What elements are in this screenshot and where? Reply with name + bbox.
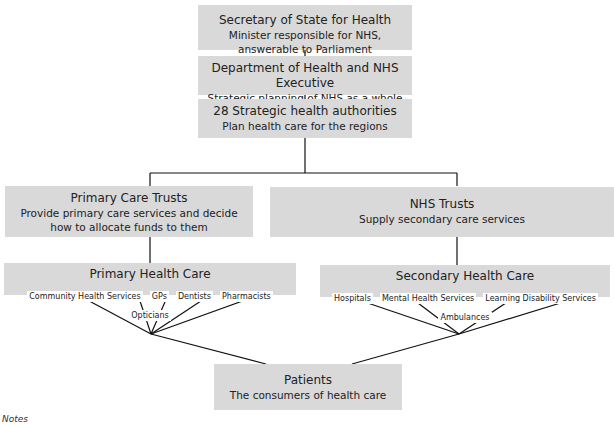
node-subtitle: Minister responsible for NHS, answerable… <box>198 28 412 56</box>
chip-community-health-services: Community Health Services <box>27 291 142 302</box>
node-secretary: Secretary of State for Health Minister r… <box>198 5 412 50</box>
node-subtitle: The consumers of health care <box>214 388 402 402</box>
chip-hospitals: Hospitals <box>332 293 373 304</box>
chip-learning-disability-services: Learning Disability Services <box>483 293 598 304</box>
node-title: NHS Trusts <box>270 197 614 212</box>
node-primary-health-care: Primary Health Care Community Health Ser… <box>4 263 296 295</box>
node-title: Primary Health Care <box>4 267 296 282</box>
node-subtitle: Plan health care for the regions <box>198 119 412 133</box>
node-subtitle: Supply secondary care services <box>270 212 614 226</box>
node-subtitle: Provide primary care services and decide… <box>11 206 247 234</box>
chip-pharmacists: Pharmacists <box>220 291 273 302</box>
node-patients: Patients The consumers of health care <box>214 364 402 410</box>
line-primary-patients <box>151 334 266 364</box>
chip-mental-health-services: Mental Health Services <box>380 293 476 304</box>
node-authorities: 28 Strategic health authorities Plan hea… <box>198 99 412 138</box>
node-secondary-health-care: Secondary Health Care Hospitals Mental H… <box>320 265 610 297</box>
node-nhs-trusts: NHS Trusts Supply secondary care service… <box>270 187 614 237</box>
node-title: Secretary of State for Health <box>198 13 412 28</box>
node-title: Patients <box>214 373 402 388</box>
node-title: Primary Care Trusts <box>11 191 247 206</box>
node-title: Secondary Health Care <box>320 269 610 284</box>
notes-label: Notes <box>2 414 28 424</box>
chip-opticians: Opticians <box>129 310 171 321</box>
node-title: Department of Health and NHS Executive <box>198 61 412 91</box>
line-secondary-patients <box>352 334 459 364</box>
chip-dentists: Dentists <box>176 291 213 302</box>
chip-gps: GPs <box>150 291 169 302</box>
chip-ambulances: Ambulances <box>438 312 491 323</box>
node-primary-care-trusts: Primary Care Trusts Provide primary care… <box>5 186 253 237</box>
node-department: Department of Health and NHS Executive S… <box>198 56 412 95</box>
node-title: 28 Strategic health authorities <box>198 104 412 119</box>
